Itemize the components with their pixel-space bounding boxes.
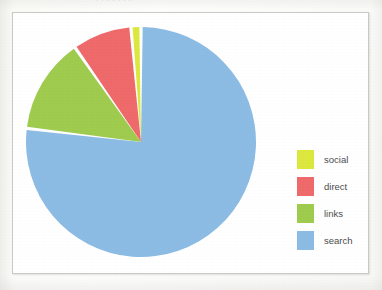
legend-label-search: search xyxy=(324,236,353,246)
legend-item-social[interactable]: social xyxy=(297,146,375,173)
legend-label-links: links xyxy=(324,209,343,219)
legend-item-links[interactable]: links xyxy=(297,200,375,227)
pie-chart xyxy=(25,26,257,258)
legend-swatch-links xyxy=(297,204,314,223)
legend-item-direct[interactable]: direct xyxy=(297,173,375,200)
chart-plot-area: socialdirectlinkssearch xyxy=(0,0,382,290)
pie-slice-group xyxy=(26,27,256,257)
chart-legend: socialdirectlinkssearch xyxy=(297,146,375,254)
legend-label-direct: direct xyxy=(324,182,347,192)
screenshot-root: · · · · · · · socialdirectlinkssearch xyxy=(0,0,382,290)
legend-swatch-social xyxy=(297,150,314,169)
legend-label-social: social xyxy=(324,155,348,165)
legend-swatch-direct xyxy=(297,177,314,196)
legend-swatch-search xyxy=(297,231,314,250)
legend-item-search[interactable]: search xyxy=(297,227,375,254)
